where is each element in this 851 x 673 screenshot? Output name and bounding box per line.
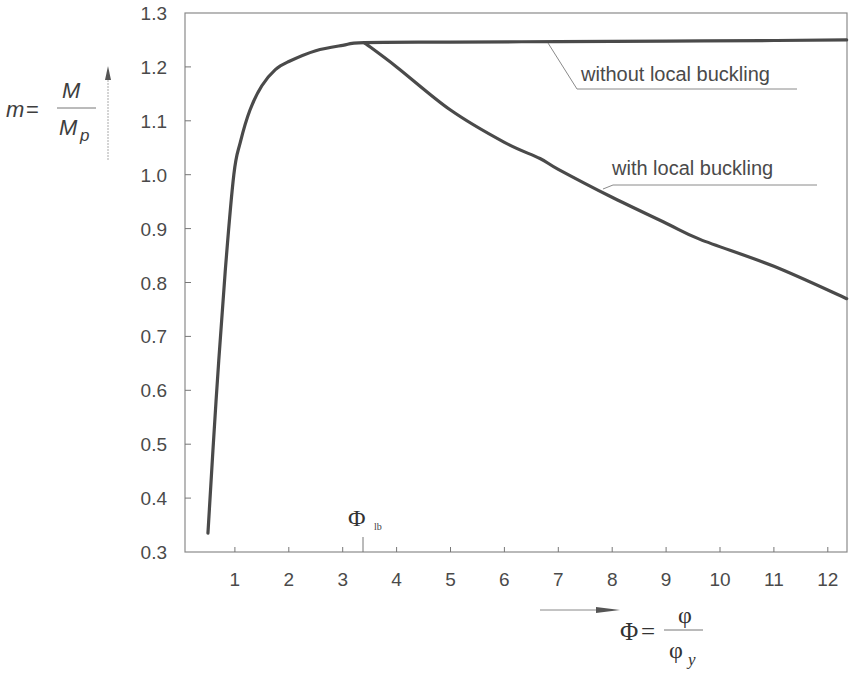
y-tick-label: 0.8 [141,273,167,294]
x-tick-label: 6 [499,569,510,590]
x-axis-label: Φ = φ φ y [620,602,703,669]
svg-text:M: M [59,115,78,140]
annotation-with-local-buckling: with local buckling [611,157,773,179]
y-tick-label: 0.4 [141,488,168,509]
svg-text:φ: φ [678,602,692,628]
x-tick-label: 4 [391,569,402,590]
y-tick-label: 1.0 [141,165,167,186]
svg-text:φ: φ [669,637,683,663]
y-tick-label: 0.9 [141,219,167,240]
x-tick-label: 7 [553,569,564,590]
x-tick-label: 8 [607,569,618,590]
phi-lb-label: Φ [348,505,366,531]
plot-frame [185,13,847,552]
svg-text:M: M [62,78,81,103]
x-axis-ticks: 123456789101112 [230,547,839,590]
svg-text:y: y [686,650,696,669]
x-tick-label: 11 [764,569,784,590]
svg-text:m: m [6,97,24,122]
annotation-without-local-buckling: without local buckling [580,63,770,85]
svg-text:=: = [26,97,39,122]
series-without-local-buckling [208,40,847,533]
x-tick-label: 12 [817,569,838,590]
x-axis-arrow-icon [540,607,620,613]
x-tick-label: 3 [337,569,348,590]
y-tick-label: 0.6 [141,380,167,401]
phi-lb-subscript: lb [374,521,382,532]
y-tick-label: 1.3 [141,3,167,24]
y-axis-arrow-icon [105,66,111,160]
leader-with-local-buckling [603,185,817,189]
y-tick-label: 0.7 [141,326,167,347]
data-series [208,40,847,533]
y-axis-ticks: 0.30.40.50.60.70.80.91.01.11.21.3 [141,3,191,563]
x-tick-label: 9 [661,569,672,590]
svg-text:=: = [641,618,655,645]
chart: 0.30.40.50.60.70.80.91.01.11.21.3 123456… [0,0,851,673]
y-tick-label: 0.3 [141,542,167,563]
x-tick-label: 2 [284,569,295,590]
y-tick-label: 1.2 [141,57,167,78]
y-tick-label: 0.5 [141,434,167,455]
x-tick-label: 1 [230,569,241,590]
y-axis-label: m = M M p [6,78,96,145]
x-tick-label: 10 [709,569,730,590]
y-tick-label: 1.1 [141,111,167,132]
svg-text:p: p [79,126,89,145]
x-tick-label: 5 [445,569,456,590]
svg-text:Φ: Φ [620,618,638,645]
